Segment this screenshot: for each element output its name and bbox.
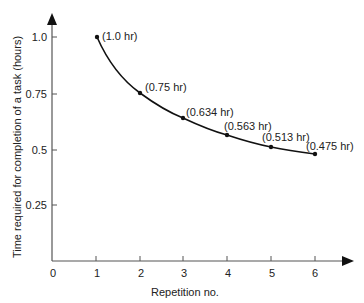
x-tick-label: 6 (312, 267, 318, 279)
x-tick-label: 5 (269, 267, 275, 279)
data-point (138, 91, 142, 95)
data-point (95, 35, 99, 39)
x-tick-label: 3 (181, 267, 187, 279)
data-point (181, 116, 185, 120)
data-point (225, 133, 229, 137)
chart-svg: 0.25 0.5 0.75 1.0 0 1 2 3 4 5 6 Repetiti… (0, 0, 364, 303)
y-axis-title: Time required for completion of a task (… (11, 36, 23, 258)
data-point (269, 145, 273, 149)
data-label: (0.513 hr) (262, 131, 310, 143)
x-tick-label: 1 (94, 267, 100, 279)
y-tick-label: 0.5 (32, 144, 47, 156)
x-axis-title: Repetition no. (151, 286, 219, 298)
x-ticks: 0 1 2 3 4 5 6 (50, 256, 318, 279)
y-tick-label: 0.75 (26, 88, 47, 100)
data-label: (0.75 hr) (145, 81, 187, 93)
y-tick-label: 1.0 (32, 31, 47, 43)
data-label: (0.475 hr) (306, 140, 354, 152)
y-axis-arrow-icon (47, 13, 57, 25)
data-label: (1.0 hr) (102, 30, 137, 42)
learning-curve-chart: 0.25 0.5 0.75 1.0 0 1 2 3 4 5 6 Repetiti… (0, 0, 364, 303)
x-axis-arrow-icon (342, 256, 354, 266)
x-tick-label: 4 (225, 267, 231, 279)
data-label: (0.634 hr) (186, 106, 234, 118)
data-point (313, 152, 317, 156)
y-tick-label: 0.25 (26, 199, 47, 211)
x-tick-label: 0 (50, 267, 56, 279)
x-tick-label: 2 (138, 267, 144, 279)
